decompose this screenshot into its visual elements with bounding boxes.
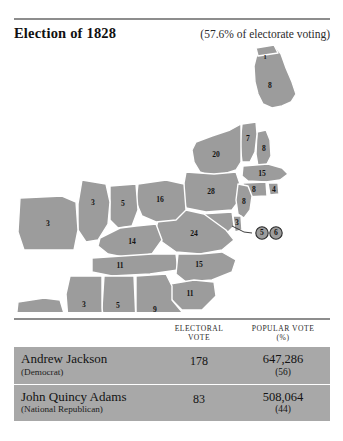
- column-header-electoral-vote: ELECTORAL VOTE: [162, 324, 236, 343]
- ev-label-mississippi: 3: [82, 300, 86, 309]
- ev-label-alabama: 5: [116, 301, 120, 310]
- ev-label-split-b: 6: [274, 228, 278, 237]
- ev-label-new-hampshire: 8: [262, 144, 266, 153]
- ev-label-tennessee: 11: [116, 261, 123, 270]
- column-header-popular-line1: POPULAR VOTE: [236, 324, 330, 333]
- state-north-carolina: [176, 252, 236, 282]
- table-row: Andrew Jackson (Democrat) 178 647,286 (5…: [14, 347, 330, 383]
- ev-label-delaware: 3: [235, 218, 239, 227]
- table-row: John Quincy Adams (National Republican) …: [14, 384, 330, 421]
- ev-label-vermont: 7: [246, 134, 250, 143]
- column-header-candidate: [14, 324, 162, 343]
- state-tennessee: [92, 254, 178, 276]
- results-table-body: Andrew Jackson (Democrat) 178 647,286 (5…: [14, 347, 330, 420]
- ev-label-rhode-island: 4: [272, 185, 276, 194]
- ev-label-connecticut: 8: [252, 185, 256, 194]
- candidate-party: (National Republican): [21, 404, 162, 415]
- results-column-headers: ELECTORAL VOTE POPULAR VOTE (%): [14, 320, 330, 343]
- state-illinois: [78, 180, 110, 242]
- ev-label-maine-north: 1: [263, 53, 266, 60]
- ev-label-new-york: 20: [212, 150, 220, 159]
- candidate-cell: Andrew Jackson (Democrat): [14, 352, 162, 377]
- results-table: ELECTORAL VOTE POPULAR VOTE (%) Andrew J…: [14, 318, 330, 421]
- column-header-electoral-line2: VOTE: [162, 333, 236, 342]
- popular-vote-value: 647,286: [236, 353, 330, 367]
- ev-label-ohio: 16: [156, 195, 164, 204]
- popular-vote-percent: (56): [236, 367, 330, 378]
- ev-label-north-carolina: 15: [195, 260, 203, 269]
- page-title: Election of 1828: [14, 25, 116, 42]
- ev-label-south-carolina: 11: [186, 289, 193, 298]
- header-row: Election of 1828 (57.6% of electorate vo…: [14, 20, 330, 42]
- ev-label-massachusetts: 15: [258, 169, 266, 178]
- map-state-shapes: [16, 45, 296, 312]
- ev-label-kentucky: 14: [128, 237, 136, 246]
- ev-label-new-jersey: 8: [242, 197, 246, 206]
- ev-label-split-a: 5: [260, 228, 264, 237]
- electoral-vote-value: 83: [162, 390, 236, 407]
- column-header-electoral-line1: ELECTORAL: [162, 324, 236, 333]
- figure-header: Election of 1828 (57.6% of electorate vo…: [14, 18, 330, 42]
- ev-label-virginia: 24: [190, 229, 198, 238]
- candidate-name: Andrew Jackson: [21, 352, 162, 366]
- ev-label-georgia: 9: [153, 305, 157, 312]
- state-louisiana: [16, 298, 68, 312]
- electoral-vote-value: 178: [162, 352, 236, 369]
- column-header-popular-line2: (%): [236, 333, 330, 342]
- ev-label-indiana: 5: [121, 199, 125, 208]
- popular-vote-percent: (44): [236, 404, 330, 415]
- ev-label-illinois: 3: [91, 198, 95, 207]
- ev-label-maine: 8: [268, 81, 272, 90]
- turnout-note: (57.6% of electorate voting): [200, 28, 330, 40]
- candidate-name: John Quincy Adams: [21, 390, 162, 404]
- candidate-cell: John Quincy Adams (National Republican): [14, 390, 162, 415]
- ev-label-missouri: 3: [46, 219, 50, 228]
- candidate-party: (Democrat): [21, 367, 162, 378]
- popular-vote-cell: 647,286 (56): [236, 352, 330, 378]
- ev-label-pennsylvania: 28: [207, 187, 215, 196]
- popular-vote-value: 508,064: [236, 391, 330, 405]
- column-header-popular-vote: POPULAR VOTE (%): [236, 324, 330, 343]
- election-map: 1 8 7 8 20 15 8 4 28 8 3 24 16 5 3 3 14 …: [0, 44, 343, 312]
- popular-vote-cell: 508,064 (44): [236, 390, 330, 416]
